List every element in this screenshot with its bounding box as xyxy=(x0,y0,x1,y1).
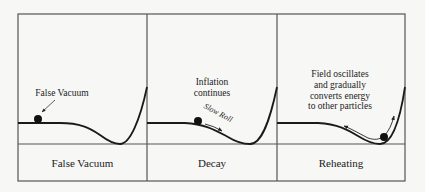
field-ball xyxy=(380,133,388,141)
inflation-stages-diagram: False Vacuum False Vacuum Inflation cont… xyxy=(0,0,425,192)
annotation-line: Field oscillates xyxy=(311,69,369,79)
panel-false-vacuum: False Vacuum False Vacuum xyxy=(18,87,147,169)
annotation-line: continues xyxy=(194,88,231,98)
annotation-line: and gradually xyxy=(314,80,366,90)
caption-reheating: Reheating xyxy=(319,157,364,169)
field-ball xyxy=(34,115,42,123)
caption-decay: Decay xyxy=(198,157,227,169)
slow-roll-label: Slow Roll xyxy=(202,102,234,125)
annotation-line: converts energy xyxy=(310,91,370,101)
panel-reheating: Field oscillates and gradually converts … xyxy=(277,69,405,169)
caption-false-vacuum: False Vacuum xyxy=(52,157,114,169)
panel-decay: Inflation continues Slow Roll Decay xyxy=(147,77,277,169)
field-ball xyxy=(194,117,202,125)
annotation-false-vacuum: False Vacuum xyxy=(35,88,89,98)
annotation-line: Inflation xyxy=(196,77,229,87)
annotation-line: to other particles xyxy=(308,101,372,111)
pointer-arrow xyxy=(42,100,55,112)
